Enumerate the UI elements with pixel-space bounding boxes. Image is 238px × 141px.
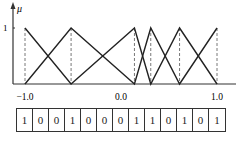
membership-lines	[25, 28, 217, 84]
axes	[11, 2, 237, 84]
bit-cell: 1	[17, 109, 33, 131]
y-axis-arrow-icon	[11, 2, 16, 9]
x-tick-label: 0.0	[115, 92, 127, 102]
axis-labels: μ1−1.00.01.0	[3, 3, 223, 102]
membership-series	[25, 28, 217, 84]
bit-cell: 0	[33, 109, 49, 131]
bit-string: 1001000110101	[16, 108, 226, 132]
x-tick-label: −1.0	[16, 92, 33, 102]
dashed-guides	[25, 28, 217, 84]
bit-cell: 0	[113, 109, 129, 131]
bit-cell: 0	[161, 109, 177, 131]
y-tick-label: 1	[3, 23, 8, 33]
bit-cell: 1	[145, 109, 161, 131]
bit-cell: 0	[81, 109, 97, 131]
bit-cell: 0	[49, 109, 65, 131]
membership-function-chart: μ1−1.00.01.0	[0, 0, 238, 106]
membership-series	[25, 28, 217, 84]
bit-cell: 0	[97, 109, 113, 131]
bit-cell: 1	[209, 109, 225, 131]
x-tick-label: 1.0	[211, 92, 223, 102]
bit-cell: 0	[193, 109, 209, 131]
bit-cell: 1	[65, 109, 81, 131]
y-axis-label: μ	[16, 3, 22, 14]
bit-cell: 1	[177, 109, 193, 131]
bit-cell: 1	[129, 109, 145, 131]
